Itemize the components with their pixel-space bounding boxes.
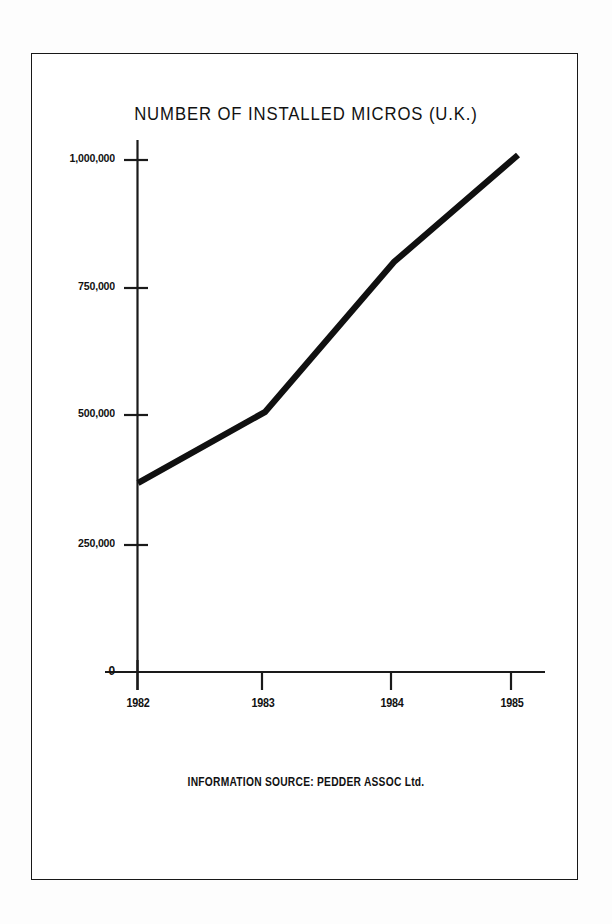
x-tick-label-1985: 1985 [481, 696, 544, 710]
y-tick-label-1000000: 1,000,000 [41, 152, 115, 164]
y-tick-label-750000: 750,000 [41, 280, 115, 292]
y-tick-label-250000: 250,000 [41, 537, 115, 549]
chart-title: NUMBER OF INSTALLED MICROS (U.K.) [37, 103, 576, 125]
x-tick-label-1984: 1984 [361, 696, 424, 710]
y-tick-label-zero: 0 [41, 663, 115, 678]
x-tick-label-1982: 1982 [107, 696, 170, 710]
y-tick-label-500000: 500,000 [41, 407, 115, 419]
x-tick-label-1983: 1983 [232, 696, 295, 710]
page-canvas: NUMBER OF INSTALLED MICROS (U.K.) 1,000,… [0, 0, 612, 924]
source-note: INFORMATION SOURCE: PEDDER ASSOC Ltd. [55, 775, 557, 789]
chart-frame-border [31, 53, 578, 880]
